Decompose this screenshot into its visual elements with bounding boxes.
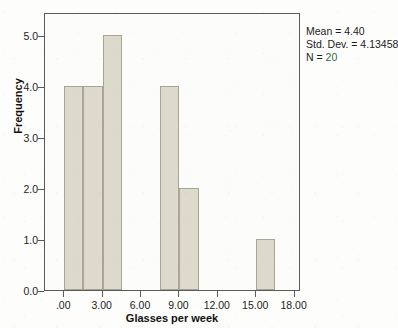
stat-std-dev: Std. Dev. = 4.13458	[306, 38, 398, 51]
y-axis-tick	[38, 291, 44, 292]
y-axis-tick	[38, 138, 44, 139]
x-axis-tick	[294, 291, 295, 297]
x-axis-tick	[178, 291, 179, 297]
y-axis-tick	[38, 189, 44, 190]
stat-n-prefix: N =	[306, 51, 326, 63]
histogram-figure: 0.01.02.03.04.05.0 .003.006.009.0012.001…	[0, 0, 398, 328]
histogram-bar	[64, 86, 83, 290]
histogram-bar	[256, 239, 275, 290]
y-axis-tick-label: 5.0	[4, 30, 38, 42]
statistics-annotation: Mean = 4.40 Std. Dev. = 4.13458 N = 20	[306, 25, 398, 64]
x-axis-tick	[102, 291, 103, 297]
stat-n-value: 20	[326, 51, 338, 63]
plot-frame	[44, 13, 300, 291]
x-axis-title: Glasses per week	[44, 312, 300, 324]
histogram-bar	[83, 86, 102, 290]
stat-n: N = 20	[306, 51, 398, 64]
histogram-bar	[103, 35, 122, 290]
y-axis-tick	[38, 87, 44, 88]
x-axis-tick-label: 18.00	[271, 299, 317, 311]
y-axis-tick-label: 0.0	[4, 285, 38, 297]
x-axis-tick	[140, 291, 141, 297]
y-axis-tick	[38, 36, 44, 37]
x-axis-tick	[255, 291, 256, 297]
y-axis-title: Frequency	[12, 58, 24, 154]
x-axis-tick	[217, 291, 218, 297]
stat-mean: Mean = 4.40	[306, 25, 398, 38]
histogram-bar	[160, 86, 179, 290]
x-axis-tick	[63, 291, 64, 297]
y-axis-tick-label: 1.0	[4, 234, 38, 246]
plot-area	[45, 14, 299, 290]
histogram-bar	[179, 188, 198, 290]
y-axis-tick-label: 2.0	[4, 183, 38, 195]
y-axis-tick	[38, 240, 44, 241]
